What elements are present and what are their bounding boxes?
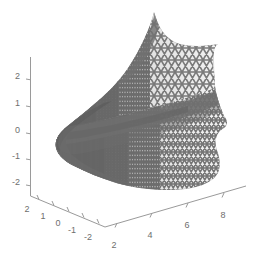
z-axis-tick-labels: 2 1 0 -1 -2 [12, 71, 20, 187]
y-tick-label: 1 [40, 211, 45, 221]
z-tick-label: 2 [15, 71, 20, 81]
x-axis-ticks [115, 193, 224, 228]
figure-3d-surface-plot: 2 1 0 -1 -2 2 1 0 -1 -2 2 4 6 8 [0, 0, 274, 265]
y-tick-label: 2 [24, 204, 29, 214]
x-tick-label: 4 [147, 230, 152, 240]
x-tick-label: 2 [111, 240, 116, 250]
z-tick-label: 1 [15, 98, 20, 108]
z-tick-label: -1 [12, 151, 20, 161]
y-tick-label: 0 [55, 218, 60, 228]
surface-mesh [0, 0, 274, 265]
z-axis-ticks [26, 79, 31, 186]
y-axis-ticks [37, 195, 99, 224]
plot-canvas: 2 1 0 -1 -2 2 1 0 -1 -2 2 4 6 8 [0, 0, 274, 265]
z-tick-label: 0 [15, 125, 20, 135]
y-tick-label: -1 [68, 225, 76, 235]
y-axis-tick-labels: 2 1 0 -1 -2 [24, 204, 92, 242]
x-tick-label: 8 [220, 210, 225, 220]
x-axis-tick-labels: 2 4 6 8 [111, 210, 225, 250]
y-tick-label: -2 [84, 232, 92, 242]
x-axis-line [105, 186, 246, 227]
x-tick-label: 6 [184, 220, 189, 230]
z-tick-label: -2 [12, 177, 20, 187]
